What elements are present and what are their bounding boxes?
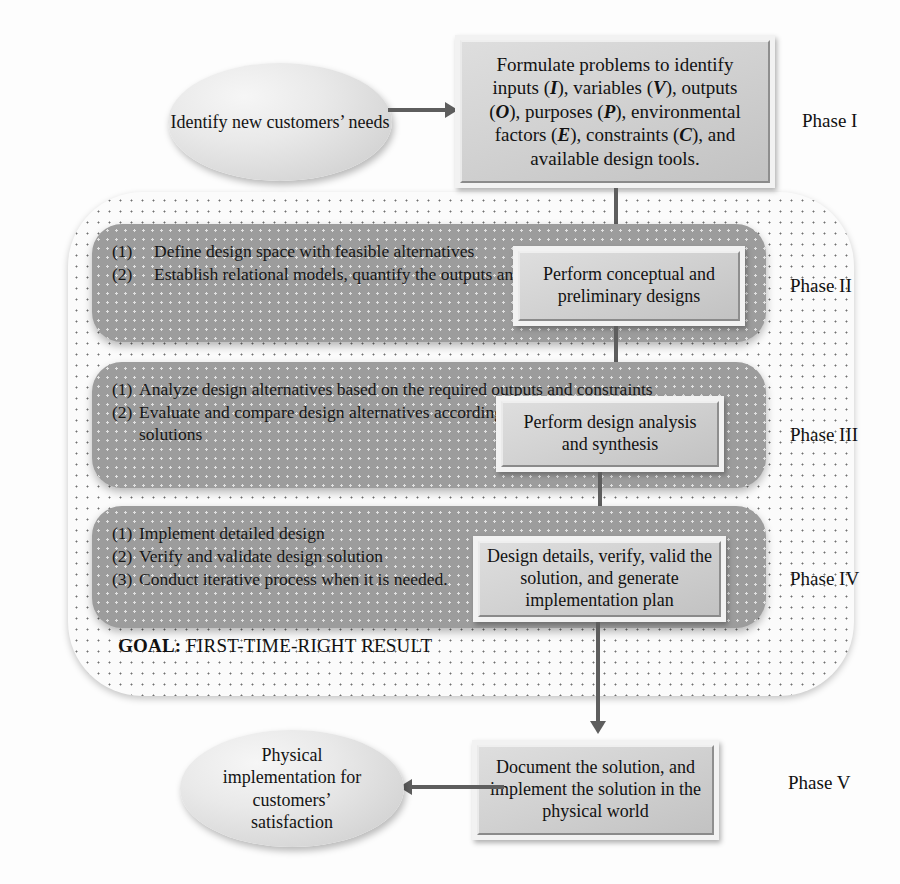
arrow-phase4-to-phase5-shaft: [596, 622, 600, 725]
goal-label: GOAL:: [118, 635, 181, 656]
phase1-line2: inputs (I), variables (V), outputs: [489, 76, 741, 99]
arrow-start-to-phase1-shaft: [388, 108, 446, 112]
phase2-item-2-num: (2): [112, 263, 154, 285]
arrow-phase5-to-end-shaft: [412, 785, 504, 789]
phase4-item-2-num: (2): [112, 545, 139, 567]
phase3-item-2-num: (2): [112, 401, 139, 445]
goal-statement: GOAL: FIRST-TIME-RIGHT RESULT: [118, 635, 432, 657]
phase2-process-box: Perform conceptual and preliminary desig…: [513, 246, 745, 326]
phase-label-3: Phase III: [790, 424, 858, 446]
phase5-process-box: Document the solution, and implement the…: [472, 740, 719, 840]
diagram-canvas: Identify new customers’ needs Formulate …: [0, 0, 900, 884]
phase4-item-3-num: (3): [112, 568, 139, 590]
end-ellipse-label: Physical implementation for customers’ s…: [217, 744, 367, 834]
phase2-item-1-num: (1): [112, 240, 154, 262]
goal-value: FIRST-TIME-RIGHT RESULT: [186, 635, 432, 656]
phase1-line1: Formulate problems to identify: [489, 53, 741, 76]
start-ellipse: Identify new customers’ needs: [168, 63, 392, 181]
phase-label-4: Phase IV: [790, 568, 859, 590]
phase3-process-box: Perform design analysis and synthesis: [496, 396, 724, 472]
phase4-item-1-num: (1): [112, 522, 139, 544]
phase2-process-box-inner: Perform conceptual and preliminary desig…: [518, 251, 740, 321]
phase1-line5: available design tools.: [489, 147, 741, 170]
phase3-item-1-num: (1): [112, 378, 139, 400]
phase1-process-box-inner: Formulate problems to identify inputs (I…: [460, 40, 770, 183]
phase-label-5: Phase V: [788, 772, 850, 794]
end-ellipse: Physical implementation for customers’ s…: [180, 730, 404, 847]
phase1-line4: factors (E), constraints (C), and: [489, 123, 741, 146]
start-ellipse-label: Identify new customers’ needs: [170, 111, 389, 134]
phase3-process-box-inner: Perform design analysis and synthesis: [501, 401, 719, 467]
arrow-phase4-to-phase5-head: [590, 721, 606, 734]
phase5-process-box-inner: Document the solution, and implement the…: [477, 745, 714, 835]
phase-label-2: Phase II: [790, 275, 852, 297]
phase1-line3: (O), purposes (P), environmental: [489, 100, 741, 123]
phase4-process-box-inner: Design details, verify, valid the soluti…: [478, 541, 721, 617]
phase1-process-box: Formulate problems to identify inputs (I…: [455, 35, 775, 188]
phase4-process-box: Design details, verify, valid the soluti…: [473, 536, 726, 622]
phase-label-1: Phase I: [802, 110, 857, 132]
